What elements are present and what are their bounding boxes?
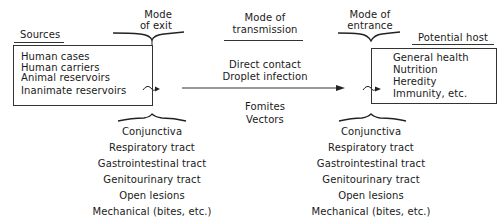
exit-route-item: Gastrointestinal tract (82, 156, 222, 172)
exit-route-item: Conjunctiva (82, 124, 222, 140)
exit-route-item: Open lesions (82, 188, 222, 204)
transmission-direct-item: Droplet infection (205, 71, 325, 82)
transmission-indirect-item: Fomites (220, 101, 310, 112)
transmission-label-line2: transmission (215, 24, 315, 35)
entrance-routes-brace-icon (339, 114, 406, 121)
host-item: Nutrition (393, 64, 469, 75)
entrance-label-line1: Mode of (340, 9, 400, 20)
entrance-label-line2: entrance (340, 20, 400, 31)
transmission-indirect: Fomites Vectors (220, 101, 310, 125)
exit-routes-brace-icon (118, 114, 186, 121)
entrance-route-item: Conjunctiva (301, 124, 441, 140)
entrance-route-item: Genitourinary tract (301, 172, 441, 188)
entrance-route-item: Mechanical (bites, etc.) (301, 204, 441, 220)
exit-brace-icon (113, 32, 184, 40)
transmission-direct-item: Direct contact (205, 59, 325, 70)
entrance-route-item: Gastrointestinal tract (301, 156, 441, 172)
entrance-route-item: Respiratory tract (301, 140, 441, 156)
transmission-label-underline (224, 40, 303, 41)
transmission-direct: Direct contact Droplet infection (205, 59, 325, 82)
sources-title-underline (14, 42, 64, 43)
exit-label-line2: of exit (136, 20, 172, 31)
transmission-label-line1: Mode of (215, 12, 315, 23)
host-title: Potential host (418, 32, 488, 43)
exit-route-item: Mechanical (bites, etc.) (82, 204, 222, 220)
transmission-arrowhead-icon (336, 85, 345, 91)
host-box: General health Nutrition Heredity Immuni… (371, 48, 497, 104)
sources-title: Sources (20, 29, 60, 40)
exit-label-line1: Mode (142, 9, 172, 20)
sources-item: Animal reservoirs (21, 72, 126, 83)
transmission-indirect-item: Vectors (220, 114, 310, 125)
exit-routes-list: Conjunctiva Respiratory tract Gastrointe… (82, 124, 222, 220)
host-item: Heredity (393, 76, 469, 87)
sources-box: Human cases Human carriers Animal reserv… (13, 45, 153, 106)
sources-item: Inanimate reservoirs (21, 85, 126, 96)
entrance-route-item: Open lesions (301, 188, 441, 204)
host-title-underline (412, 44, 494, 45)
entrance-routes-list: Conjunctiva Respiratory tract Gastrointe… (301, 124, 441, 220)
exit-route-item: Respiratory tract (82, 140, 222, 156)
host-item: General health (393, 52, 469, 63)
entrance-brace-icon (338, 32, 400, 41)
sources-item: Human cases (21, 51, 126, 62)
host-item: Immunity, etc. (393, 88, 469, 99)
exit-route-item: Genitourinary tract (82, 172, 222, 188)
